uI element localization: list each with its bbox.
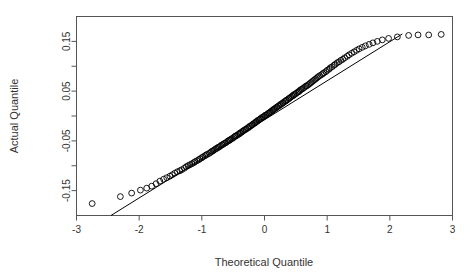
y-tick-label: -0.05 — [61, 129, 72, 152]
x-tick-label: -2 — [135, 224, 144, 235]
y-tick-label: -0.15 — [61, 179, 72, 202]
y-axis-title: Actual Quantile — [8, 79, 20, 154]
x-tick-label: 2 — [387, 224, 393, 235]
qq-plot-canvas: -0.15-0.050.050.15 -3-2-10123 Theoretica… — [0, 0, 472, 279]
y-tick-label: 0.15 — [61, 31, 72, 51]
x-tick-label: -3 — [72, 224, 81, 235]
x-axis-title: Theoretical Quantile — [215, 256, 313, 268]
x-tick-label: 1 — [324, 224, 330, 235]
x-tick-label: 0 — [262, 224, 268, 235]
y-tick-label: 0.05 — [61, 81, 72, 101]
qq-plot-figure: -0.15-0.050.050.15 -3-2-10123 Theoretica… — [0, 0, 472, 279]
x-tick-label: -1 — [197, 224, 206, 235]
x-tick-label: 3 — [450, 224, 456, 235]
